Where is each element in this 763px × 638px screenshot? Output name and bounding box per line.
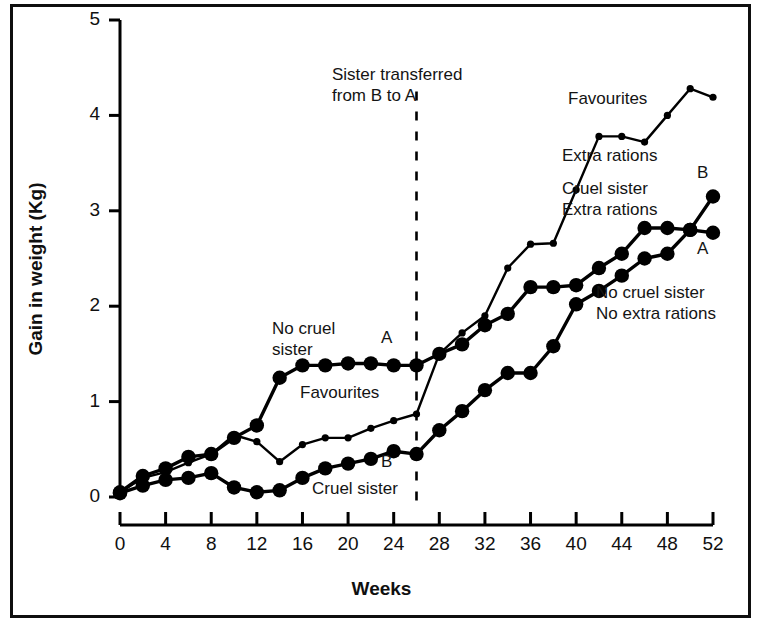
y-tick-label: 5 [72,8,100,30]
point-label-a-mid: A [381,328,392,348]
x-tick-label: 4 [146,533,186,555]
data-point [501,307,515,321]
x-tick-label: 20 [328,533,368,555]
x-tick-label: 8 [191,533,231,555]
data-point [409,358,423,372]
data-point [455,337,469,351]
data-point [409,447,423,461]
data-point [318,461,332,475]
x-axis-title: Weeks [0,578,763,600]
data-point [250,485,264,499]
data-point [113,486,127,500]
y-tick-label: 1 [72,390,100,412]
data-point [618,133,625,140]
data-point [341,356,355,370]
data-point [683,223,697,237]
data-point [478,318,492,332]
x-tick-label: 44 [602,533,642,555]
annotation-favourites-right: Favourites [568,88,647,109]
data-point [595,133,602,140]
data-point [592,261,606,275]
annotation-cruel-sister-extra-rations: Cruel sister Extra rations [562,178,657,220]
data-point [227,480,241,494]
data-point [455,404,469,418]
data-point [364,356,378,370]
annotation-extra-rations-right: Extra rations [562,145,657,166]
data-point [637,221,651,235]
data-point [550,240,557,247]
data-point [204,466,218,480]
data-point [615,247,629,261]
data-point [181,450,195,464]
data-point [413,410,420,417]
data-point [272,483,286,497]
y-axis-title: Gain in weight (Kg) [25,159,47,379]
data-point [637,251,651,265]
data-point [432,423,446,437]
x-tick-label: 52 [693,533,733,555]
data-point [341,456,355,470]
data-point [504,264,511,271]
y-tick-label: 0 [72,485,100,507]
annotation-cruel-sister-left: Cruel sister [312,478,398,499]
data-point [272,371,286,385]
data-point [527,241,534,248]
data-point [367,425,374,432]
x-tick-label: 12 [237,533,277,555]
annotation-transfer-note: Sister transferred from B to A [332,64,462,106]
y-tick-label: 3 [72,199,100,221]
data-point [615,268,629,282]
data-point [546,280,560,294]
data-point [432,347,446,361]
data-point [253,438,260,445]
figure-container: Gain in weight (Kg) Weeks 012345 0481216… [0,0,763,638]
point-label-b-end: B [697,163,708,183]
data-point [276,458,283,465]
data-point [501,366,515,380]
data-point [523,280,537,294]
x-tick-label: 40 [556,533,596,555]
data-point [660,247,674,261]
data-point [687,85,694,92]
data-point [295,471,309,485]
data-point [660,221,674,235]
data-point [295,358,309,372]
data-point [386,358,400,372]
data-point [478,383,492,397]
data-point [250,418,264,432]
x-tick-label: 16 [282,533,322,555]
x-tick-label: 36 [511,533,551,555]
y-tick-label: 4 [72,103,100,125]
data-point [523,366,537,380]
data-point [709,94,716,101]
x-tick-label: 24 [374,533,414,555]
data-point [364,452,378,466]
data-point [390,417,397,424]
data-point [227,431,241,445]
data-point [569,297,583,311]
data-point [322,434,329,441]
point-label-b-mid: B [381,452,392,472]
y-tick-label: 2 [72,294,100,316]
annotation-favourites-left: Favourites [300,382,379,403]
data-point [664,112,671,119]
point-label-a-end: A [697,239,708,259]
data-point [318,358,332,372]
x-tick-label: 32 [465,533,505,555]
x-tick-label: 28 [419,533,459,555]
x-tick-label: 0 [100,533,140,555]
data-point [344,434,351,441]
data-point [569,278,583,292]
data-point [459,329,466,336]
annotation-no-cruel-no-extra-rations: No cruel sister No extra rations [596,282,716,324]
annotation-no-cruel-sister: No cruel sister [272,318,335,360]
data-point [136,478,150,492]
data-point [299,441,306,448]
x-tick-label: 48 [647,533,687,555]
data-point [181,471,195,485]
data-point [706,226,720,240]
data-point [204,447,218,461]
data-point [706,189,720,203]
data-point [546,339,560,353]
data-point [158,473,172,487]
